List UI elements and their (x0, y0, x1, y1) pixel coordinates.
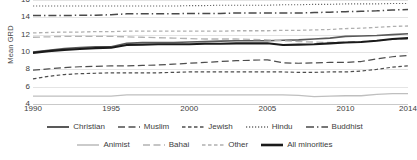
series-canvas (33, 0, 408, 104)
legend-label-christian: Christian (73, 123, 105, 131)
y-tick-label: 8 (14, 65, 30, 73)
x-tick-label: 1995 (102, 104, 120, 114)
x-axis-ticks: 199019952000200520102014 (33, 104, 408, 116)
legend-swatch-animist (77, 141, 99, 149)
legend-item-other[interactable]: Other (202, 141, 248, 149)
legend-swatch-jewish (182, 123, 204, 131)
legend-item-bahai[interactable]: Bahai (143, 141, 189, 149)
legend-item-jewish[interactable]: Jewish (182, 123, 232, 131)
x-tick-label: 2000 (180, 104, 198, 114)
legend-item-buddhist[interactable]: Buddhist (306, 123, 363, 131)
x-tick-label: 2010 (337, 104, 355, 114)
legend-item-christian[interactable]: Christian (47, 123, 105, 131)
legend-item-muslim[interactable]: Muslim (118, 123, 169, 131)
series-line-hindu (33, 3, 408, 6)
legend-label-muslim: Muslim (144, 123, 169, 131)
series-line-other (33, 26, 408, 33)
plot-area: Mean GRD 46810121416 1990199520002005201… (0, 0, 410, 114)
series-line-jewish (33, 66, 408, 79)
y-tick-label: 10 (14, 48, 30, 56)
legend-swatch-all-minorities (261, 141, 283, 149)
legend-swatch-muslim (118, 123, 140, 131)
y-axis-ticks: 46810121416 (14, 0, 30, 104)
legend-label-animist: Animist (103, 141, 129, 149)
series-line-animist (33, 94, 408, 97)
series-line-buddhist (33, 10, 408, 16)
y-tick-label: 12 (14, 31, 30, 39)
legend-label-other: Other (228, 141, 248, 149)
legend-item-hindu[interactable]: Hindu (246, 123, 293, 131)
legend-swatch-buddhist (306, 123, 328, 131)
series-line-muslim (33, 55, 408, 70)
legend-row: ChristianMuslimJewishHinduBuddhist (0, 118, 410, 136)
y-tick-label: 6 (14, 83, 30, 91)
y-tick-label: 14 (14, 13, 30, 21)
series-line-all-minorities (33, 38, 408, 53)
legend-label-buddhist: Buddhist (332, 123, 363, 131)
y-tick-label: 16 (14, 0, 30, 4)
legend-label-jewish: Jewish (208, 123, 232, 131)
chart-legend: ChristianMuslimJewishHinduBuddhistAnimis… (0, 118, 410, 160)
x-tick-label: 2014 (399, 104, 417, 114)
legend-label-all-minorities: All minorities (287, 141, 332, 149)
legend-item-animist[interactable]: Animist (77, 141, 129, 149)
legend-row: AnimistBahaiOtherAll minorities (0, 136, 410, 154)
legend-swatch-hindu (246, 123, 268, 131)
legend-item-all-minorities[interactable]: All minorities (261, 141, 332, 149)
legend-label-hindu: Hindu (272, 123, 293, 131)
x-tick-label: 2005 (258, 104, 276, 114)
x-tick-label: 1990 (24, 104, 42, 114)
legend-swatch-bahai (143, 141, 165, 149)
legend-swatch-other (202, 141, 224, 149)
legend-swatch-christian (47, 123, 69, 131)
legend-label-bahai: Bahai (169, 141, 189, 149)
